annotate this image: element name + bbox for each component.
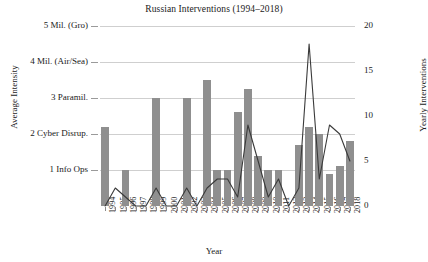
x-axis-tick-mark — [309, 207, 310, 211]
x-axis-tick-mark — [177, 207, 178, 211]
x-axis-tick-mark — [105, 207, 106, 211]
x-axis-tick-mark — [115, 207, 116, 211]
x-axis-tick-mark — [248, 207, 249, 211]
x-axis-title: Year — [0, 246, 428, 256]
line-series — [100, 26, 355, 206]
y-axis-right-title: Yearly Interventions — [418, 30, 428, 160]
y-axis-left-tick-mark — [91, 62, 98, 63]
x-axis-tick-mark — [166, 207, 167, 211]
y-axis-left-tick-mark — [91, 26, 98, 27]
x-axis-tick-mark — [330, 207, 331, 211]
x-axis-tick-mark — [350, 207, 351, 211]
y-axis-right-tick-label: 5 — [364, 155, 369, 165]
x-axis-tick-mark — [299, 207, 300, 211]
x-axis-tick-mark — [126, 207, 127, 211]
x-axis-tick-mark — [146, 207, 147, 211]
y-axis-right-tick-label: 0 — [364, 200, 369, 210]
y-axis-left-tick-label: 1 Info Ops — [0, 164, 88, 174]
y-axis-left-tick-label: 5 Mil. (Gro) — [0, 20, 88, 30]
y-axis-left-tick-label: 2 Cyber Disrup. — [0, 128, 88, 138]
y-axis-left-tick-mark — [91, 98, 98, 99]
x-axis-tick-mark — [207, 207, 208, 211]
y-axis-right-tick-label: 10 — [364, 110, 373, 120]
plot-area — [100, 26, 355, 206]
x-axis-tick-mark — [279, 207, 280, 211]
y-axis-right-tick-label: 20 — [364, 20, 373, 30]
x-axis-tick-mark — [289, 207, 290, 211]
x-axis-tick-mark — [217, 207, 218, 211]
x-axis-tick-mark — [136, 207, 137, 211]
chart-container: Russian Interventions (1994–2018) Averag… — [0, 0, 428, 262]
x-axis-tick-mark — [319, 207, 320, 211]
x-axis-tick-mark — [238, 207, 239, 211]
x-axis-tick-mark — [156, 207, 157, 211]
x-axis-tick-mark — [340, 207, 341, 211]
x-axis-tick-mark — [268, 207, 269, 211]
y-axis-left-tick-label: 4 Mil. (Air/Sea) — [0, 56, 88, 66]
chart-title: Russian Interventions (1994–2018) — [0, 4, 428, 14]
line-series-path — [105, 44, 350, 206]
y-axis-right-tick-label: 15 — [364, 65, 373, 75]
x-axis-tick-mark — [258, 207, 259, 211]
y-axis-left-tick-label: 3 Paramil. — [0, 92, 88, 102]
x-axis-tick-mark — [187, 207, 188, 211]
x-axis-tick-mark — [228, 207, 229, 211]
x-axis-tick-mark — [197, 207, 198, 211]
y-axis-left-tick-mark — [91, 170, 98, 171]
y-axis-left-tick-mark — [91, 134, 98, 135]
